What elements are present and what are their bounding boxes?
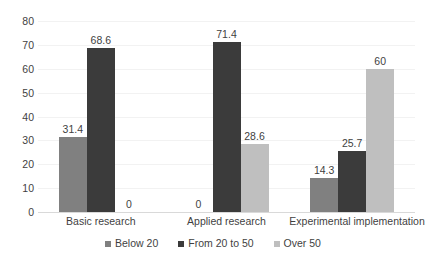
bar-value-label: 0 <box>185 199 213 210</box>
x-axis-category-label: Basic research <box>38 215 164 228</box>
bar-value-label: 31.4 <box>59 124 87 135</box>
gridline <box>38 21 415 22</box>
y-axis-tick-label: 20 <box>0 159 34 169</box>
bar-value-label: 25.7 <box>338 138 366 149</box>
legend: Below 20From 20 to 50Over 50 <box>0 238 426 249</box>
bar-value-label: 60 <box>366 56 394 67</box>
bar <box>87 48 115 212</box>
y-axis-tick-label: 50 <box>0 88 34 98</box>
bar-value-label: 71.4 <box>213 29 241 40</box>
bar-value-label: 14.3 <box>310 165 338 176</box>
gridline <box>38 212 415 213</box>
y-axis: 80706050403020100 <box>0 0 34 264</box>
bar <box>213 42 241 212</box>
y-axis-tick-label: 70 <box>0 40 34 50</box>
bar <box>366 69 394 212</box>
y-axis-tick-label: 10 <box>0 183 34 193</box>
legend-swatch-icon <box>178 241 184 247</box>
bar-value-label: 68.6 <box>87 35 115 46</box>
x-axis-category-label: Applied research <box>164 215 290 228</box>
y-axis-tick-label: 80 <box>0 16 34 26</box>
bar-value-label: 0 <box>115 199 143 210</box>
y-axis-tick-label: 40 <box>0 112 34 122</box>
bar <box>338 151 366 212</box>
legend-item[interactable]: Over 50 <box>274 238 321 249</box>
legend-swatch-icon <box>105 241 111 247</box>
x-axis-category-label: Experimental implementation <box>289 215 415 228</box>
legend-label: Over 50 <box>284 238 321 249</box>
legend-label: Below 20 <box>115 238 158 249</box>
bar-chart: 80706050403020100 31.468.60071.428.614.3… <box>0 0 426 264</box>
legend-item[interactable]: Below 20 <box>105 238 158 249</box>
legend-label: From 20 to 50 <box>188 238 253 249</box>
bar-value-label: 28.6 <box>241 131 269 142</box>
y-axis-tick-label: 30 <box>0 135 34 145</box>
y-axis-tick-label: 60 <box>0 64 34 74</box>
bar <box>59 137 87 212</box>
legend-item[interactable]: From 20 to 50 <box>178 238 253 249</box>
bar <box>310 178 338 212</box>
plot-area: 31.468.60071.428.614.325.760 <box>38 21 415 212</box>
bar <box>241 144 269 212</box>
legend-swatch-icon <box>274 241 280 247</box>
x-axis: Basic researchApplied researchExperiment… <box>38 215 415 231</box>
y-axis-tick-label: 0 <box>0 207 34 217</box>
